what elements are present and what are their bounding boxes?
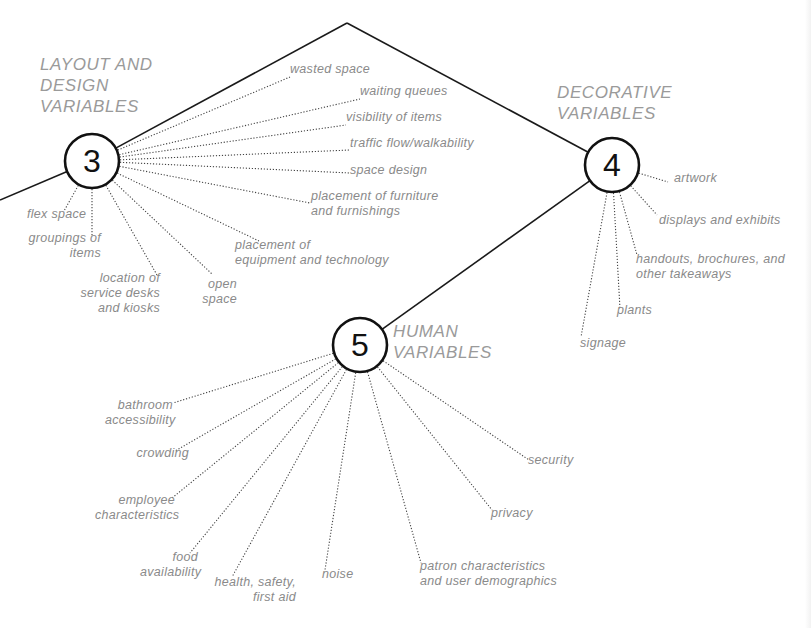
connector-human-6	[368, 372, 421, 563]
variable-label-line: items	[28, 246, 101, 261]
variable-label-line: food	[140, 550, 198, 565]
variable-label-human: privacy	[491, 506, 533, 521]
connector-decorative-3	[614, 193, 620, 309]
group-title-decorative: DECORATIVEVARIABLES	[557, 82, 672, 124]
variable-label-line: first aid	[212, 590, 296, 605]
group-title-human: HUMANVARIABLES	[393, 321, 492, 363]
variable-label-line: service desks	[80, 286, 160, 301]
variable-label-line: placement of furniture	[311, 189, 439, 204]
variable-label-line: accessibility	[105, 413, 173, 428]
variable-label-line: health, safety,	[212, 575, 296, 590]
variable-label-line: waiting queues	[360, 84, 448, 99]
group-title-line: DECORATIVE	[557, 82, 672, 103]
variable-label-human: noise	[322, 567, 353, 582]
node-number-decorative: 4	[585, 138, 639, 192]
group-title-line: VARIABLES	[557, 103, 672, 124]
variable-label-line: location of	[80, 271, 160, 286]
variable-label-line: and user demographics	[420, 574, 557, 589]
variable-label-line: flex space	[27, 207, 86, 222]
variable-label-line: security	[528, 453, 573, 468]
connector-human-4	[232, 370, 346, 577]
connector-human-7	[377, 367, 492, 510]
connector-layout-10	[117, 173, 259, 241]
variable-label-line: equipment and technology	[235, 253, 389, 268]
variable-label-line: privacy	[491, 506, 533, 521]
node-number-layout: 3	[65, 134, 119, 188]
variable-label-line: bathroom	[105, 398, 173, 413]
group-title-line: HUMAN	[393, 321, 492, 342]
variable-label-line: other takeaways	[636, 267, 785, 282]
variable-label-human: foodavailability	[140, 550, 198, 580]
variable-label-decorative: displays and exhibits	[659, 213, 781, 228]
variable-label-human: crowding	[125, 446, 189, 461]
variable-label-layout: location ofservice desksand kiosks	[80, 271, 160, 316]
group-title-line: DESIGN	[40, 75, 153, 96]
variable-label-line: availability	[140, 565, 198, 580]
variable-label-layout: visibility of items	[346, 110, 442, 125]
variable-label-decorative: signage	[580, 336, 626, 351]
page-edge-shadow	[805, 0, 811, 628]
variable-label-layout: openspace	[200, 277, 237, 307]
variable-label-line: wasted space	[290, 62, 370, 77]
variable-label-line: employee	[95, 493, 175, 508]
variable-label-human: employeecharacteristics	[95, 493, 175, 523]
variable-label-layout: space design	[350, 163, 427, 178]
variable-label-line: crowding	[125, 446, 189, 461]
node-number-human: 5	[333, 318, 387, 372]
variable-label-layout: flex space	[27, 207, 86, 222]
variable-label-line: traffic flow/walkability	[350, 136, 474, 151]
variable-label-layout: groupings ofitems	[28, 231, 101, 261]
connector-human-8	[383, 361, 529, 460]
variable-label-line: visibility of items	[346, 110, 442, 125]
connector-human-3	[190, 367, 342, 553]
variable-label-line: characteristics	[95, 508, 175, 523]
variable-label-line: space design	[350, 163, 427, 178]
variable-label-human: security	[528, 453, 573, 468]
group-title-layout: LAYOUT ANDDESIGNVARIABLES	[40, 54, 153, 117]
variable-label-line: groupings of	[28, 231, 101, 246]
variable-label-layout: waiting queues	[360, 84, 448, 99]
connector-decorative-4	[581, 193, 607, 337]
variable-label-layout: wasted space	[290, 62, 370, 77]
variable-label-line: noise	[322, 567, 353, 582]
diagram-canvas: 3LAYOUT ANDDESIGNVARIABLESwasted spacewa…	[0, 0, 811, 628]
group-title-line: VARIABLES	[393, 342, 492, 363]
group-title-line: VARIABLES	[40, 96, 153, 117]
variable-label-line: and kiosks	[80, 301, 160, 316]
connector-decorative-0	[639, 173, 668, 182]
variable-label-line: placement of	[235, 238, 389, 253]
connector-human-0	[173, 353, 333, 403]
connector-layout-2	[120, 125, 346, 157]
variable-label-line: space	[200, 292, 237, 307]
variable-label-layout: traffic flow/walkability	[350, 136, 474, 151]
variable-label-layout: placement of furnitureand furnishings	[311, 189, 439, 219]
variable-label-decorative: artwork	[674, 171, 717, 186]
connector-decorative-2	[619, 192, 637, 255]
variable-label-line: open	[200, 277, 237, 292]
connector-layout-8	[106, 185, 157, 275]
connector-layout-5	[119, 166, 310, 203]
variable-label-decorative: handouts, brochures, andother takeaways	[636, 252, 785, 282]
variable-label-layout: placement ofequipment and technology	[235, 238, 389, 268]
variable-label-line: and furnishings	[311, 204, 439, 219]
connector-layout-3	[120, 150, 350, 160]
variable-label-line: plants	[617, 303, 652, 318]
variable-label-line: artwork	[674, 171, 717, 186]
spine-segment	[0, 172, 67, 200]
connector-layout-9	[112, 180, 212, 274]
connector-layout-4	[120, 162, 350, 173]
variable-label-line: displays and exhibits	[659, 213, 781, 228]
variable-label-decorative: plants	[617, 303, 652, 318]
variable-label-line: patron characteristics	[420, 559, 557, 574]
variable-label-line: handouts, brochures, and	[636, 252, 785, 267]
variable-label-human: patron characteristicsand user demograph…	[420, 559, 557, 589]
connector-human-5	[325, 373, 356, 570]
variable-label-line: signage	[580, 336, 626, 351]
variable-label-human: bathroomaccessibility	[105, 398, 173, 428]
group-title-line: LAYOUT AND	[40, 54, 153, 75]
variable-label-human: health, safety,first aid	[212, 575, 296, 605]
